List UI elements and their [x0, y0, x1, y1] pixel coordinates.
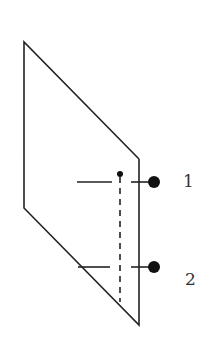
plane-outline — [24, 42, 139, 325]
line-1-endpoint — [148, 176, 160, 188]
label-1: 1 — [183, 171, 194, 191]
diagram-canvas — [0, 0, 206, 339]
small-point — [117, 171, 123, 177]
label-2: 2 — [185, 269, 196, 289]
line-2-endpoint — [148, 261, 160, 273]
